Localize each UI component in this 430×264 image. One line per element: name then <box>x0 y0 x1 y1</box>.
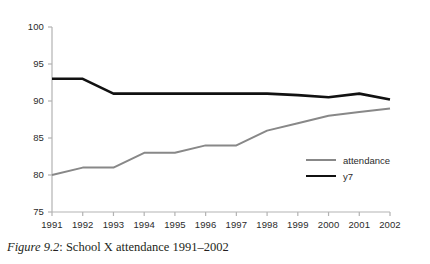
x-axis-label: 1993 <box>96 219 130 230</box>
series-line-y7 <box>52 79 390 100</box>
legend-item-y7: y7 <box>306 168 422 184</box>
x-axis-label: 1991 <box>35 219 69 230</box>
axis-lines <box>48 27 390 216</box>
line-chart-svg <box>0 0 430 232</box>
x-axis-label: 1992 <box>66 219 100 230</box>
chart-plot-area <box>0 0 430 232</box>
figure-caption: Figure 9.2: School X attendance 1991–200… <box>7 240 229 255</box>
x-axis-label: 2002 <box>373 219 407 230</box>
legend-label-y7: y7 <box>343 171 353 182</box>
legend-item-attendance: attendance <box>306 152 422 168</box>
y-axis-label: 85 <box>18 132 44 143</box>
x-axis-label: 2000 <box>312 219 346 230</box>
legend-swatch-y7 <box>306 175 336 177</box>
y-axis-label: 90 <box>18 95 44 106</box>
x-axis-label: 1998 <box>250 219 284 230</box>
legend-swatch-attendance <box>306 159 336 161</box>
x-axis-label: 1997 <box>219 219 253 230</box>
y-axis-label: 75 <box>18 206 44 217</box>
x-axis-label: 1999 <box>281 219 315 230</box>
chart-legend: attendance y7 <box>306 152 422 184</box>
figure-number: Figure 9.2 <box>7 240 59 254</box>
y-axis-label: 100 <box>18 21 44 32</box>
caption-text: School X attendance 1991–2002 <box>66 240 229 254</box>
figure-container: 1009590858075 19911992199319941995199619… <box>0 0 430 264</box>
x-axis-label: 2001 <box>342 219 376 230</box>
x-axis-label: 1994 <box>127 219 161 230</box>
x-axis-label: 1995 <box>158 219 192 230</box>
y-axis-label: 95 <box>18 58 44 69</box>
x-axis-label: 1996 <box>189 219 223 230</box>
caption-separator: : <box>59 240 66 254</box>
legend-label-attendance: attendance <box>343 155 390 166</box>
y-axis-label: 80 <box>18 169 44 180</box>
